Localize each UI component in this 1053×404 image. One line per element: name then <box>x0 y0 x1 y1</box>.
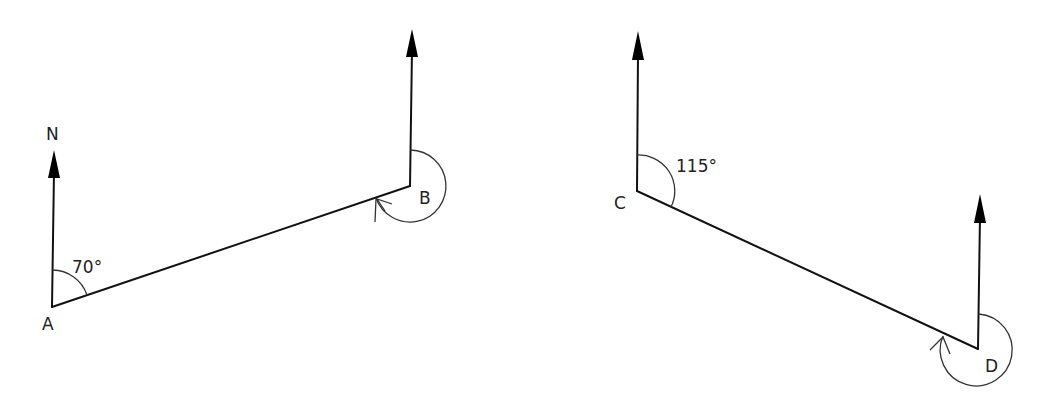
point-label-d: D <box>985 356 998 376</box>
bearings-diagram: N 70° A B 115° C <box>0 0 1053 404</box>
point-label-b: B <box>419 188 431 208</box>
north-line-c <box>637 54 638 191</box>
point-label-c: C <box>614 193 626 213</box>
north-arrowhead-d <box>974 194 986 223</box>
north-line-a <box>52 172 54 307</box>
north-label: N <box>46 124 59 144</box>
angle-label-a: 70° <box>72 257 102 277</box>
arc-arrow-b-tail <box>375 199 376 222</box>
north-line-b <box>410 50 412 186</box>
north-line-d <box>978 216 980 349</box>
left-figure: N 70° A B <box>42 29 446 334</box>
line-ab <box>52 186 410 307</box>
right-figure: 115° C D <box>614 31 1012 386</box>
north-arrowhead-b <box>406 29 418 57</box>
north-arrowhead-c <box>632 31 644 60</box>
line-cd <box>637 191 978 349</box>
angle-arc-d <box>940 314 1012 386</box>
north-arrowhead-a <box>48 150 60 178</box>
angle-label-c: 115° <box>676 156 717 176</box>
point-label-a: A <box>42 314 54 334</box>
